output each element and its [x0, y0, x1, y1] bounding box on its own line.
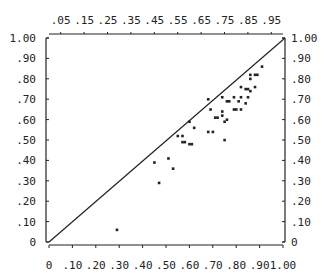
left-tick-label: .50 — [16, 134, 36, 147]
data-point — [153, 161, 156, 164]
axes — [46, 32, 285, 248]
bottom-tick-label: .60 — [179, 259, 199, 272]
data-point — [254, 74, 257, 77]
right-tick-label: .90 — [291, 52, 311, 65]
data-point — [237, 100, 240, 103]
top-tick-label: .25 — [98, 14, 118, 27]
data-point — [177, 135, 180, 138]
right-tick-label: 0 — [291, 236, 298, 249]
left-tick-label: .90 — [16, 52, 36, 65]
data-point — [191, 143, 194, 146]
right-tick-label: .20 — [291, 195, 311, 208]
data-point — [223, 139, 226, 142]
left-tick-label: .80 — [16, 73, 36, 86]
bottom-tick-label: .70 — [203, 259, 223, 272]
top-tick-label: .35 — [121, 14, 141, 27]
data-point — [188, 120, 191, 123]
data-point — [212, 131, 215, 134]
top-tick-label: .45 — [144, 14, 164, 27]
right-tick-label: .10 — [291, 216, 311, 229]
data-point — [116, 229, 119, 232]
right-tick-label: .40 — [291, 154, 311, 167]
reference-diagonal-line — [49, 38, 285, 242]
bottom-tick-label: .90 — [250, 259, 270, 272]
bottom-tick-label: .30 — [109, 259, 129, 272]
data-point — [228, 100, 231, 103]
data-point — [240, 86, 243, 89]
left-tick-label: .40 — [16, 154, 36, 167]
data-point — [254, 86, 257, 89]
top-tick-label: .75 — [215, 14, 235, 27]
left-tick-label: .30 — [16, 175, 36, 188]
data-point — [167, 157, 170, 160]
data-point — [214, 116, 217, 119]
data-points — [116, 65, 264, 231]
data-point — [244, 102, 247, 105]
top-tick-label: .55 — [168, 14, 188, 27]
right-tick-label: 1.00 — [291, 32, 318, 45]
data-point — [256, 74, 259, 77]
data-point — [249, 78, 252, 81]
left-tick-label: .20 — [16, 195, 36, 208]
top-tick-label: .65 — [191, 14, 211, 27]
top-tick-label: .95 — [261, 14, 281, 27]
right-tick-label: .60 — [291, 114, 311, 127]
data-point — [249, 90, 252, 93]
data-point — [240, 108, 243, 111]
data-point — [193, 127, 196, 130]
data-point — [188, 143, 191, 146]
data-point — [221, 114, 224, 117]
data-point — [226, 100, 229, 103]
left-tick-label: .10 — [16, 216, 36, 229]
data-point — [209, 108, 212, 111]
data-point — [247, 88, 250, 91]
data-point — [207, 131, 210, 134]
data-point — [184, 141, 187, 144]
data-point — [244, 88, 247, 91]
bottom-tick-label: .20 — [86, 259, 106, 272]
data-point — [235, 108, 238, 111]
left-tick-label: 1.00 — [10, 32, 37, 45]
bottom-tick-label: .10 — [62, 259, 82, 272]
right-tick-label: .70 — [291, 93, 311, 106]
data-point — [233, 96, 236, 99]
scatter-chart: 0.10.20.30.40.50.60.70.80.901.00.05.15.2… — [0, 0, 331, 280]
data-point — [247, 96, 250, 99]
top-tick-label: .15 — [74, 14, 94, 27]
data-point — [223, 120, 226, 123]
data-point — [226, 118, 229, 121]
right-tick-label: .30 — [291, 175, 311, 188]
left-tick-label: .60 — [16, 114, 36, 127]
data-point — [181, 141, 184, 144]
bottom-tick-label: .40 — [133, 259, 153, 272]
top-tick-label: .85 — [238, 14, 258, 27]
data-point — [221, 110, 224, 113]
data-point — [181, 135, 184, 138]
top-tick-label: .05 — [51, 14, 71, 27]
data-point — [158, 182, 161, 185]
bottom-tick-label: 0 — [46, 259, 53, 272]
bottom-tick-label: .80 — [226, 259, 246, 272]
left-tick-label: .70 — [16, 93, 36, 106]
data-point — [221, 96, 224, 99]
bottom-tick-label: 1.00 — [270, 259, 297, 272]
data-point — [216, 116, 219, 119]
data-point — [240, 96, 243, 99]
bottom-tick-label: .50 — [156, 259, 176, 272]
left-tick-label: 0 — [29, 236, 36, 249]
data-point — [172, 167, 175, 170]
right-tick-label: .50 — [291, 134, 311, 147]
data-point — [261, 65, 264, 68]
data-point — [249, 74, 252, 77]
data-point — [233, 108, 236, 111]
right-tick-label: .80 — [291, 73, 311, 86]
data-point — [207, 98, 210, 101]
